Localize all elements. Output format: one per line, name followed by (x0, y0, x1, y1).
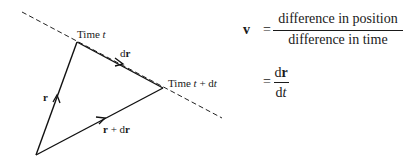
label-time-t: Time t (77, 29, 106, 40)
r-var: r (281, 65, 287, 80)
fraction-denominator-2: dt (273, 86, 289, 100)
label-r: r (43, 92, 48, 103)
velocity-symbol: v (243, 23, 250, 37)
fraction-bar-1 (273, 30, 403, 31)
r-var: r (126, 47, 131, 59)
equals-sign-2: = (263, 75, 271, 89)
fraction-numerator-1: difference in position (273, 12, 403, 26)
d-text: d (276, 85, 283, 100)
time-text: Time (168, 77, 194, 89)
r-var: r (125, 123, 130, 135)
equals-sign-1: = (263, 23, 271, 37)
time-text: Time (77, 28, 103, 40)
t-var: t (103, 28, 106, 40)
fraction-bar-2 (274, 82, 289, 83)
plus-d-text: + d (108, 123, 125, 135)
t-var: t (214, 77, 217, 89)
label-dr: dr (120, 48, 130, 59)
fraction-numerator-2: dr (273, 66, 289, 80)
label-time-t-dt: Time t + dt (168, 78, 217, 89)
path-dashed-line (22, 12, 222, 118)
label-r-plus-dr: r + dr (103, 124, 130, 135)
fraction-denominator-1: difference in time (273, 33, 403, 47)
plus-d-text: + d (197, 77, 214, 89)
t-var: t (283, 85, 287, 100)
